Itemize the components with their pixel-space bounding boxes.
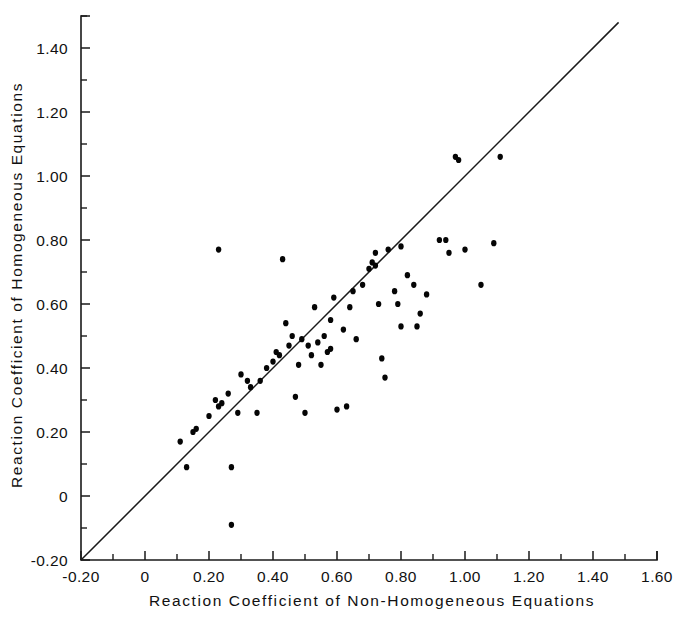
scatter-point	[328, 317, 333, 323]
x-axis-title: Reaction Coefficient of Non-Homogeneous …	[149, 592, 595, 609]
x-tick-label: 1.20	[513, 568, 545, 585]
x-tick-label: 1.00	[449, 568, 481, 585]
scatter-point	[344, 403, 349, 409]
scatter-point	[446, 250, 451, 256]
scatter-point	[194, 426, 199, 432]
scatter-point	[373, 250, 378, 256]
scatter-point	[443, 237, 448, 243]
scatter-point	[491, 240, 496, 246]
y-tick-label: 0.20	[36, 424, 68, 441]
scatter-point	[379, 355, 384, 361]
scatter-point	[299, 336, 304, 342]
scatter-point	[418, 311, 423, 317]
scatter-point	[293, 394, 298, 400]
x-tick-label: -0.20	[62, 568, 99, 585]
y-tick-label: 0.60	[36, 296, 68, 313]
scatter-point	[405, 272, 410, 278]
x-tick-label: 0.80	[385, 568, 417, 585]
y-tick-label: -0.20	[31, 552, 68, 569]
y-tick-label: 1.40	[36, 40, 68, 57]
scatter-point	[206, 413, 211, 419]
y-tick-label: 1.20	[36, 104, 68, 121]
scatter-point	[424, 291, 429, 297]
x-tick-label: 1.40	[577, 568, 609, 585]
x-tick-label: 0.60	[321, 568, 353, 585]
scatter-point	[235, 410, 240, 416]
scatter-point	[258, 378, 263, 384]
scatter-point	[392, 288, 397, 294]
scatter-point	[373, 263, 378, 269]
scatter-point	[296, 362, 301, 368]
identity-line-segment	[81, 22, 619, 560]
scatter-point	[219, 400, 224, 406]
scatter-point	[302, 410, 307, 416]
scatter-plot-figure: -0.2000.200.400.600.801.001.201.401.60-0…	[0, 0, 673, 628]
x-tick-label: 0.20	[193, 568, 225, 585]
scatter-point	[213, 397, 218, 403]
scatter-point	[216, 247, 221, 253]
scatter-point	[334, 407, 339, 413]
scatter-point	[309, 352, 314, 358]
y-tick-label: 0	[59, 488, 68, 505]
y-axis-title: Reaction Coefficient of Homogeneous Equa…	[8, 82, 25, 488]
scatter-point	[328, 346, 333, 352]
scatter-point	[498, 154, 503, 160]
scatter-point	[270, 359, 275, 365]
data-points	[178, 154, 503, 528]
scatter-point	[331, 295, 336, 301]
scatter-point	[229, 464, 234, 470]
x-tick-label: 1.60	[641, 568, 673, 585]
scatter-point	[248, 384, 253, 390]
scatter-point	[398, 243, 403, 249]
y-tick-label: 1.00	[36, 168, 68, 185]
x-tick-label: 0.40	[257, 568, 289, 585]
scatter-point	[254, 410, 259, 416]
scatter-point	[264, 365, 269, 371]
scatter-point	[306, 343, 311, 349]
y-tick-label: 0.80	[36, 232, 68, 249]
scatter-point	[382, 375, 387, 381]
axes	[81, 16, 657, 560]
axis-tick-labels: -0.2000.200.400.600.801.001.201.401.60-0…	[31, 40, 673, 585]
scatter-point	[411, 282, 416, 288]
scatter-point	[322, 333, 327, 339]
scatter-point	[414, 323, 419, 329]
scatter-point	[456, 157, 461, 163]
scatter-point	[245, 378, 250, 384]
scatter-point	[347, 304, 352, 310]
x-tick-label: 0	[140, 568, 149, 585]
scatter-point	[341, 327, 346, 333]
scatter-point	[286, 343, 291, 349]
axis-ticks	[81, 16, 657, 560]
scatter-point	[376, 301, 381, 307]
scatter-point	[238, 371, 243, 377]
scatter-point	[226, 391, 231, 397]
scatter-point	[398, 323, 403, 329]
scatter-point	[366, 266, 371, 272]
scatter-point	[184, 464, 189, 470]
scatter-point	[312, 304, 317, 310]
scatter-point	[386, 247, 391, 253]
scatter-point	[360, 282, 365, 288]
scatter-point	[283, 320, 288, 326]
scatter-point	[354, 336, 359, 342]
scatter-point	[350, 288, 355, 294]
scatter-point	[315, 339, 320, 345]
axis-spines	[81, 16, 657, 560]
scatter-point	[229, 522, 234, 528]
plot-canvas: -0.2000.200.400.600.801.001.201.401.60-0…	[0, 0, 673, 628]
scatter-point	[395, 301, 400, 307]
y-tick-label: 0.40	[36, 360, 68, 377]
scatter-point	[462, 247, 467, 253]
identity-line	[81, 22, 619, 560]
scatter-point	[478, 282, 483, 288]
scatter-point	[318, 362, 323, 368]
scatter-point	[290, 333, 295, 339]
scatter-point	[437, 237, 442, 243]
scatter-point	[280, 256, 285, 262]
scatter-point	[277, 352, 282, 358]
scatter-point	[178, 439, 183, 445]
